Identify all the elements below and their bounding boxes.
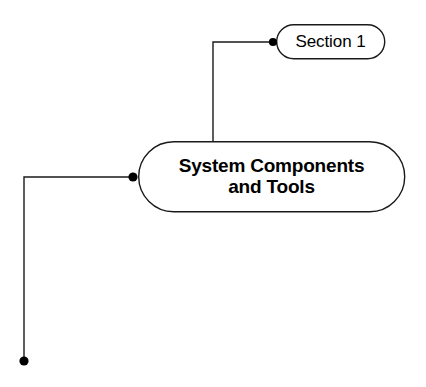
endpoint-dot-section-1 (269, 38, 277, 46)
endpoint-dot-left-branch (19, 356, 28, 365)
diagram-canvas: System Components and Tools Section 1 (0, 0, 426, 387)
junction-dot-root-left (128, 172, 137, 181)
connector-root-to-section-1 (213, 42, 273, 141)
diagram-svg (0, 0, 426, 387)
node-section-1-shape[interactable] (277, 25, 385, 59)
connector-root-to-left-branch (24, 177, 133, 361)
node-root-shape[interactable] (139, 142, 405, 212)
